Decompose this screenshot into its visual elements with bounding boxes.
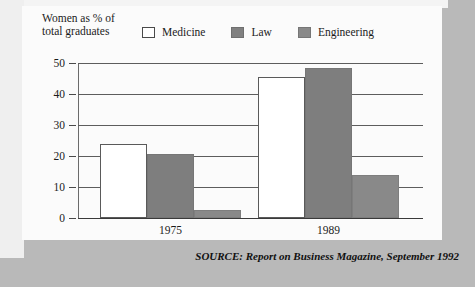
bar-group-1989: 1989 xyxy=(258,68,399,218)
source-attribution: SOURCE: Report on Business Magazine, Sep… xyxy=(195,250,459,262)
y-tick-mark-0 xyxy=(69,218,76,219)
plot-area: 0102030405019751989 xyxy=(78,63,423,218)
y-tick-mark-50 xyxy=(69,63,76,64)
legend-item-medicine: Medicine xyxy=(142,26,205,38)
bar-group-1975: 1975 xyxy=(100,144,241,218)
y-tick-mark-20 xyxy=(69,156,76,157)
legend-label-law: Law xyxy=(251,26,271,38)
legend-swatch-law-icon xyxy=(231,27,244,38)
legend-item-law: Law xyxy=(231,26,271,38)
y-axis-line xyxy=(78,63,79,218)
x-axis-label-1975: 1975 xyxy=(100,224,241,236)
legend-swatch-engineering-icon xyxy=(298,27,311,38)
y-axis-title-line2: total graduates xyxy=(42,25,109,37)
y-axis-title-line1: Women as % of xyxy=(42,12,115,24)
y-tick-label-20: 20 xyxy=(54,150,66,162)
y-axis-title: Women as % of total graduates xyxy=(42,12,138,38)
legend-swatch-medicine-icon xyxy=(142,27,155,38)
y-tick-label-40: 40 xyxy=(54,88,66,100)
bar-medicine-1975 xyxy=(100,144,147,218)
y-tick-mark-40 xyxy=(69,94,76,95)
y-tick-label-10: 10 xyxy=(54,181,66,193)
figure-left-band xyxy=(0,0,24,258)
x-axis-label-1989: 1989 xyxy=(258,224,399,236)
legend-label-engineering: Engineering xyxy=(318,26,374,38)
legend-label-medicine: Medicine xyxy=(162,26,205,38)
bar-engineering-1989 xyxy=(352,175,399,218)
y-tick-mark-30 xyxy=(69,125,76,126)
gridline-50 xyxy=(78,63,423,64)
y-tick-label-50: 50 xyxy=(54,57,66,69)
y-tick-label-0: 0 xyxy=(59,212,65,224)
bar-engineering-1975 xyxy=(194,210,241,218)
chart-header: Women as % of total graduates Medicine L… xyxy=(42,12,432,48)
legend-item-engineering: Engineering xyxy=(298,26,374,38)
bar-law-1975 xyxy=(147,154,194,218)
y-tick-label-30: 30 xyxy=(54,119,66,131)
y-tick-mark-10 xyxy=(69,187,76,188)
chart-legend: Medicine Law Engineering xyxy=(142,26,400,38)
gridline-0 xyxy=(78,218,423,219)
bar-law-1989 xyxy=(305,68,352,218)
chart-figure: Women as % of total graduates Medicine L… xyxy=(0,0,475,287)
bar-medicine-1989 xyxy=(258,77,305,218)
